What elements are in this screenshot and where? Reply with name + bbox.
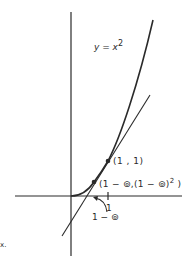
point-1-minus-eps xyxy=(92,180,97,185)
arrow-head-icon xyxy=(93,196,98,201)
tick-label-one-minus-eps: 1 − ⊚ xyxy=(92,213,119,222)
point-1-1 xyxy=(106,159,111,164)
curve-label: y = x2 xyxy=(94,40,123,52)
point-label-1-1: (1 , 1) xyxy=(113,157,144,166)
edge-text-fragment: x. xyxy=(0,242,6,249)
point-label-1-minus-eps: (1 − ⊚,(1 − ⊚)2 ) xyxy=(99,178,181,189)
